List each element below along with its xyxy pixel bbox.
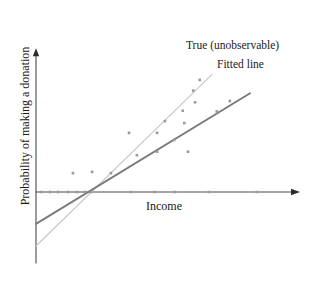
axes-group [33, 48, 300, 263]
chart-figure: True (unobservable) Fitted line Income P… [0, 0, 315, 288]
true-line [36, 74, 212, 246]
fitted-line [36, 93, 250, 224]
true-line-label: True (unobservable) [186, 40, 279, 52]
x-axis-label: Income [146, 200, 182, 212]
fitted-line-label: Fitted line [217, 59, 264, 71]
y-axis-label: Probability of making a donation [19, 26, 31, 226]
